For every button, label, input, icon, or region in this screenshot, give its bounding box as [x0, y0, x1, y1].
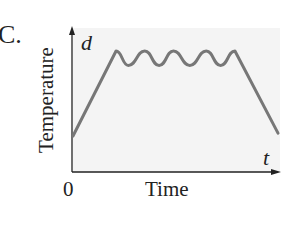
plot-background — [73, 28, 280, 172]
y-axis-label: Temperature — [34, 47, 59, 153]
x-tick-origin: 0 — [63, 178, 74, 200]
y-variable-label: d — [81, 30, 92, 56]
x-axis-label: Time — [145, 178, 189, 200]
panel-label: C. — [0, 22, 22, 48]
x-variable-label: t — [263, 145, 269, 171]
